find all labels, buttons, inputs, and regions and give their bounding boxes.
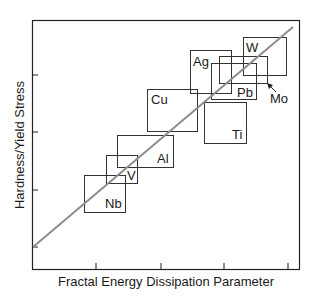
trend-line: [33, 27, 293, 247]
y-axis-title: Hardness/Yield Stress: [12, 80, 27, 209]
label-mo: Mo: [270, 91, 288, 106]
range-boxes: [85, 38, 287, 213]
label-pb: Pb: [237, 85, 253, 100]
label-w: W: [246, 40, 259, 55]
label-ti: Ti: [232, 127, 242, 142]
chart: Nb V Al Cu Ti Ag Pb Mo W Fractal Energy …: [0, 0, 316, 300]
plot-frame: [33, 21, 300, 270]
label-ag: Ag: [193, 54, 209, 69]
label-v: V: [127, 168, 136, 183]
x-axis-ticks: [96, 263, 288, 269]
label-nb: Nb: [105, 196, 122, 211]
label-cu: Cu: [151, 92, 168, 107]
label-al: Al: [157, 151, 169, 166]
x-axis-title: Fractal Energy Dissipation Parameter: [58, 274, 275, 289]
